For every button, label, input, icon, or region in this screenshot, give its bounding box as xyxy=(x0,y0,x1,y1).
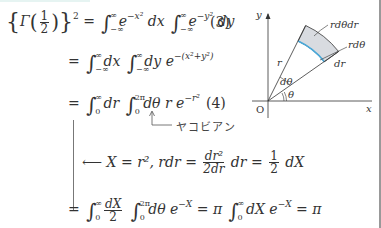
left-arrow-icon: ⟵ xyxy=(82,154,102,170)
frac-den: 2 xyxy=(104,211,122,223)
lower-limit: 0 xyxy=(140,210,145,226)
integral-sign: ∫2π0 xyxy=(131,203,141,219)
theta-label: θ xyxy=(288,89,294,100)
frac-den: 2 xyxy=(269,163,279,175)
fraction: dX2 xyxy=(104,198,122,223)
y-axis-label: y xyxy=(255,9,262,20)
arc-label: rdθ xyxy=(348,39,365,50)
integral-sign: ∫∞0 xyxy=(229,203,239,219)
integral-sign: ∫∞0 xyxy=(86,203,96,219)
jacobian-label: ヤコビアン xyxy=(176,118,236,134)
frac-num: dX xyxy=(104,198,122,211)
equals: = xyxy=(68,201,80,217)
polar-diagram: y x O r dθ θ rdθdr rdθ dr xyxy=(250,0,380,130)
substitution-line: ⟵ X = r², rdr = dr²2dr dr = 12 dX xyxy=(82,150,304,175)
radius-label: r xyxy=(277,57,283,68)
fraction: 12 xyxy=(269,150,279,175)
frac-den: 2dr xyxy=(203,163,224,175)
x-axis-label: x xyxy=(366,103,372,114)
ray-outer xyxy=(268,26,306,102)
fraction: dr²2dr xyxy=(203,150,224,175)
equation-line-4: = ∫∞0 dX2 ∫2π0dθ e−X = π ∫∞0dX e−X = π xyxy=(68,196,321,223)
sub-text: dX xyxy=(285,154,304,170)
integrand: dX e xyxy=(246,201,278,217)
area-label: rdθdr xyxy=(330,19,360,30)
theta-arc xyxy=(282,93,284,101)
lower-limit: 0 xyxy=(238,210,243,226)
dtheta-label: dθ xyxy=(280,76,292,87)
exponent: −X xyxy=(278,199,292,209)
sub-text: X = r², xyxy=(107,154,154,170)
lower-limit: 0 xyxy=(95,210,100,226)
integrand: dθ e xyxy=(148,201,178,217)
origin-label: O xyxy=(256,104,264,115)
exponent: −X xyxy=(178,199,192,209)
result: = π xyxy=(296,201,321,217)
equals-pi: = π xyxy=(197,201,222,217)
dr-label: dr xyxy=(334,58,346,69)
y-axis-arrow-icon xyxy=(266,13,271,19)
sub-text: rdr = xyxy=(158,154,197,170)
sub-text: dr = xyxy=(231,154,263,170)
